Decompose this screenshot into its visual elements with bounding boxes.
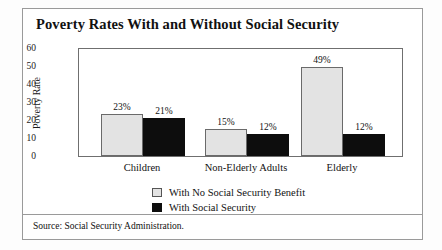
value-label-elderly-with-ss: 12% [343, 123, 385, 133]
bar-children-no-benefit [101, 114, 143, 156]
y-tick-10: 10 [6, 134, 36, 144]
y-axis-label: Poverty Rate [31, 77, 42, 129]
x-label-children: Children [100, 162, 184, 173]
value-label-adults-no-benefit: 15% [205, 118, 247, 128]
figure-container: Poverty Rates With and Without Social Se… [0, 0, 442, 250]
value-label-children-with-ss: 21% [143, 107, 185, 117]
bar-adults-with-ss [247, 134, 289, 156]
bar-group-non-elderly-adults: 15% 12% [205, 49, 289, 156]
legend-label-with-ss: With Social Security [169, 202, 256, 213]
source-divider [23, 214, 422, 215]
figure-title: Poverty Rates With and Without Social Se… [36, 16, 416, 33]
value-label-children-no-benefit: 23% [101, 103, 143, 113]
legend-item-no-benefit: With No Social Security Benefit [152, 186, 305, 199]
legend-item-with-ss: With Social Security [152, 201, 305, 214]
legend-swatch-dark-icon [152, 203, 162, 212]
bar-group-elderly: 49% 12% [301, 49, 385, 156]
x-label-non-elderly-adults: Non-Elderly Adults [204, 162, 288, 173]
source-note: Source: Social Security Administration. [33, 221, 184, 231]
bar-layer: 23% 21% 15% 12% 49% 12% [79, 49, 402, 156]
legend-swatch-light-icon [152, 188, 162, 197]
bar-elderly-with-ss [343, 134, 385, 156]
y-axis-label-wrap: Poverty Rate [44, 48, 45, 157]
value-label-adults-with-ss: 12% [247, 123, 289, 133]
y-tick-50: 50 [6, 62, 36, 72]
bar-children-with-ss [143, 118, 185, 156]
x-label-elderly: Elderly [300, 162, 384, 173]
bar-adults-no-benefit [205, 129, 247, 156]
value-label-elderly-no-benefit: 49% [301, 56, 343, 66]
plot-area: 23% 21% 15% 12% 49% 12% [78, 48, 403, 157]
bar-group-children: 23% 21% [101, 49, 185, 156]
y-tick-60: 60 [6, 44, 36, 54]
legend-label-no-benefit: With No Social Security Benefit [169, 187, 305, 198]
y-tick-0: 0 [6, 152, 36, 162]
bar-elderly-no-benefit [301, 67, 343, 156]
legend: With No Social Security Benefit With Soc… [152, 186, 305, 216]
